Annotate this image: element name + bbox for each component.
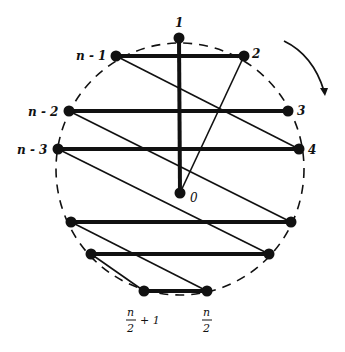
node-r2	[264, 249, 275, 260]
label-2: 2	[251, 47, 260, 61]
svg-text:n: n	[127, 306, 134, 319]
label-1: 1	[175, 16, 183, 30]
node-2	[239, 51, 250, 62]
node-n-2	[64, 106, 75, 117]
edge-2-0	[180, 56, 244, 193]
node-1	[174, 33, 185, 44]
svg-text:+ 1: + 1	[140, 314, 160, 327]
label-n-3: n - 3	[17, 143, 47, 157]
edge-1-0	[179, 38, 180, 193]
node-4	[294, 144, 305, 155]
node-n-1	[111, 51, 122, 62]
node-l2	[86, 249, 97, 260]
node-3	[283, 106, 294, 117]
label-n-1: n - 1	[76, 49, 106, 63]
node-n-half-plus-1	[139, 286, 150, 297]
node-n-3	[53, 144, 64, 155]
svg-text:n: n	[203, 306, 210, 319]
edge-l2-nhalfplus1	[91, 254, 144, 291]
node-0	[175, 188, 186, 199]
label-n-2: n - 2	[28, 105, 58, 119]
edge-n3-r2	[58, 149, 269, 254]
label-3: 3	[297, 104, 305, 118]
label-0: 0	[190, 191, 198, 205]
label-n-half: n 2	[202, 306, 212, 335]
node-r1	[286, 217, 297, 228]
node-n-half	[202, 286, 213, 297]
clockwise-arrow-icon	[284, 41, 328, 96]
round-robin-diagram: 1 n - 1 2 n - 2 3 n - 3 4 0 n 2 + 1 n 2	[0, 0, 345, 352]
svg-text:2: 2	[126, 322, 134, 335]
svg-text:2: 2	[202, 322, 210, 335]
node-l1	[66, 217, 77, 228]
label-4: 4	[308, 143, 316, 157]
label-n-half-plus-1: n 2 + 1	[126, 306, 160, 335]
